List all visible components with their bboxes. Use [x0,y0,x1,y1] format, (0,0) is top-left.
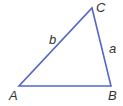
vertex-label-a: A [9,89,18,102]
triangle-figure [0,0,123,106]
vertex-label-c: C [96,1,105,14]
triangle-abc [19,8,111,86]
side-label-b: b [49,33,56,46]
vertex-label-b: B [108,89,117,102]
side-label-a: a [109,42,116,55]
